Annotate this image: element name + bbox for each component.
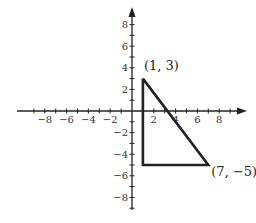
- x-tick-label: 6: [194, 114, 200, 125]
- y-tick-label: −2: [113, 127, 128, 138]
- x-tick-label: −4: [81, 114, 96, 125]
- x-tick-label: −6: [59, 114, 74, 125]
- x-tick-label: −2: [103, 114, 118, 125]
- y-tick-label: 2: [122, 84, 128, 95]
- x-tick-label: 2: [151, 114, 157, 125]
- x-axis-arrow-icon: [237, 108, 247, 115]
- y-tick-label: 4: [122, 62, 128, 73]
- y-tick-label: −4: [113, 149, 128, 160]
- x-tick-label: 8: [216, 114, 222, 125]
- y-axis-arrow-icon: [129, 7, 136, 17]
- y-tick-label: −6: [113, 170, 128, 181]
- y-tick-label: −8: [113, 192, 128, 203]
- point-label: (7, −5): [211, 164, 256, 179]
- y-tick-label: 8: [122, 19, 128, 30]
- point-label: (1, 3): [144, 58, 179, 73]
- axes: [17, 7, 247, 210]
- x-tick-label: −8: [37, 114, 52, 125]
- coordinate-plane: −8−6−4−22468−8−6−4−22468 (1, 3)(7, −5): [0, 0, 256, 223]
- y-tick-label: 6: [122, 41, 128, 52]
